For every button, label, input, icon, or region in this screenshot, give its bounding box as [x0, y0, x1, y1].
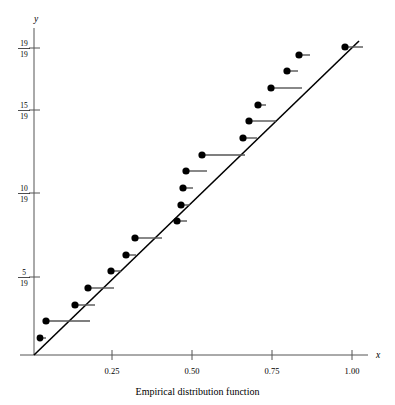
- data-point: [37, 335, 44, 342]
- y-tick-denominator: 19: [20, 50, 28, 59]
- x-axis-label: x: [375, 350, 381, 360]
- chart-svg: 19 19 15 19 10 19 5 19 0.25 0.50 0.75: [0, 0, 395, 405]
- x-tick-label-0-50: 0.50: [185, 366, 200, 376]
- data-point: [179, 184, 186, 191]
- data-point: [245, 117, 252, 124]
- data-point: [283, 67, 290, 74]
- y-tick-numerator: 10: [20, 184, 28, 193]
- data-point: [182, 167, 189, 174]
- y-tick-denominator: 19: [20, 279, 28, 288]
- data-point: [131, 234, 138, 241]
- x-tick-label-1-00: 1.00: [345, 366, 360, 376]
- data-point: [341, 43, 348, 50]
- data-point: [198, 151, 205, 158]
- data-point: [177, 201, 184, 208]
- x-tick-label-0-25: 0.25: [105, 366, 120, 376]
- y-tick-numerator: 5: [22, 268, 26, 277]
- x-tick-label-0-75: 0.75: [265, 366, 280, 376]
- data-point: [122, 251, 129, 258]
- data-point: [239, 134, 246, 141]
- data-point: [107, 267, 114, 274]
- ecdf-series-group: [37, 43, 363, 341]
- data-point: [295, 51, 302, 58]
- empirical-distribution-figure: 19 19 15 19 10 19 5 19 0.25 0.50 0.75: [0, 0, 395, 405]
- y-tick-label-5-19: 5 19: [18, 268, 30, 288]
- reference-diagonal-line: [34, 41, 359, 355]
- y-tick-numerator: 19: [20, 39, 28, 48]
- y-tick-denominator: 19: [20, 112, 28, 121]
- data-point: [267, 84, 274, 91]
- data-point: [71, 301, 78, 308]
- data-point: [84, 284, 91, 291]
- y-tick-label-15-19: 15 19: [18, 101, 30, 121]
- y-tick-denominator: 19: [20, 195, 28, 204]
- y-tick-label-10-19: 10 19: [18, 184, 30, 204]
- y-axis-label: y: [33, 14, 39, 24]
- data-point: [254, 101, 261, 108]
- data-point: [173, 217, 180, 224]
- y-tick-label-19-19: 19 19: [18, 39, 30, 59]
- data-point: [42, 317, 49, 324]
- figure-caption: Empirical distribution function: [136, 386, 260, 397]
- y-tick-numerator: 15: [20, 101, 28, 110]
